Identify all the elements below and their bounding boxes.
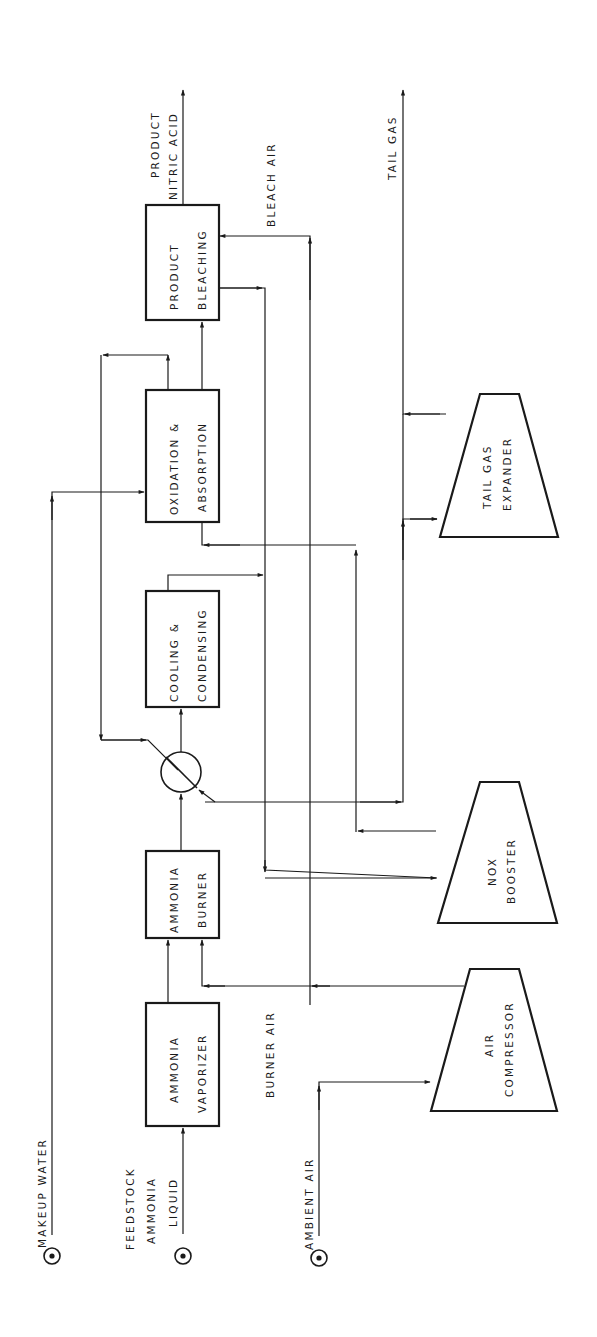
machine-air-compressor: AIR COMPRESSOR [431, 969, 557, 1111]
machine-label-line1: AIR [483, 1033, 495, 1057]
ambient-air-source-icon [311, 1250, 327, 1266]
machine-label-line2: EXPANDER [501, 437, 513, 511]
unit-label-line2: BLEACHING [196, 229, 208, 310]
label-tail-gas: TAIL GAS [386, 115, 398, 181]
unit-product-bleaching: PRODUCT BLEACHING [146, 205, 219, 320]
flow-lines [52, 90, 464, 1236]
oxidation-tailgas-line [202, 522, 356, 545]
makeup-water-line [52, 492, 144, 1235]
machine-label-line2: COMPRESSOR [503, 1001, 515, 1097]
feedstock-source-icon [175, 1248, 191, 1264]
label-burner-air: BURNER AIR [264, 1011, 276, 1098]
burner-air-line [202, 940, 464, 986]
cooling-outlet-arrow-icon [168, 575, 263, 591]
unit-label-line1: OXIDATION & [168, 421, 180, 515]
unit-cooling-condensing: COOLING & CONDENSING [146, 591, 219, 707]
unit-label-line2: ABSORPTION [196, 422, 208, 512]
expander-inlet-line [403, 519, 437, 540]
ambient-air-line [319, 1082, 430, 1236]
unit-label-line2: CONDENSING [196, 608, 208, 702]
exchanger-to-expander-line [205, 414, 403, 802]
unit-label-line1: PRODUCT [168, 243, 180, 310]
unit-label-line1: AMMONIA [168, 1036, 180, 1103]
unit-ammonia-vaporizer: AMMONIA VAPORIZER [146, 1003, 219, 1126]
machine-label-line1: NOX [486, 857, 498, 886]
machine-tail-gas-expander: TAIL GAS EXPANDER [440, 394, 558, 537]
label-nitric-acid: NITRIC ACID [167, 112, 179, 200]
label-feedstock: FEEDSTOCK [124, 1167, 136, 1250]
label-product: PRODUCT [149, 111, 161, 178]
label-feedstock-ammonia: AMMONIA [145, 1177, 157, 1244]
label-bleach-air: BLEACH AIR [265, 142, 277, 227]
unit-label-line2: BURNER [196, 871, 208, 928]
unit-ammonia-burner: AMMONIA BURNER [146, 851, 219, 938]
unit-label-line1: COOLING & [168, 622, 180, 702]
unit-label-line1: AMMONIA [168, 866, 180, 933]
label-feedstock-liquid: LIQUID [167, 1178, 179, 1227]
machine-label-line2: BOOSTER [505, 838, 517, 904]
machine-label-line1: TAIL GAS [481, 444, 493, 510]
machine-nox-booster: NOX BOOSTER [438, 782, 557, 923]
tail-gas-arrow-icon [403, 90, 446, 414]
bleacher-offgas-line [219, 288, 437, 878]
exchanger-outlet-arrow-icon [199, 790, 215, 802]
makeup-water-source-icon [44, 1248, 60, 1264]
label-makeup-water: MAKEUP WATER [36, 1138, 48, 1248]
unit-label-line2: VAPORIZER [196, 1033, 208, 1113]
label-ambient-air: AMBIENT AIR [303, 1157, 315, 1250]
unit-oxidation-absorption: OXIDATION & ABSORPTION [146, 390, 219, 522]
process-flow-diagram: PRODUCT BLEACHING OXIDATION & ABSORPTION… [0, 0, 597, 1337]
